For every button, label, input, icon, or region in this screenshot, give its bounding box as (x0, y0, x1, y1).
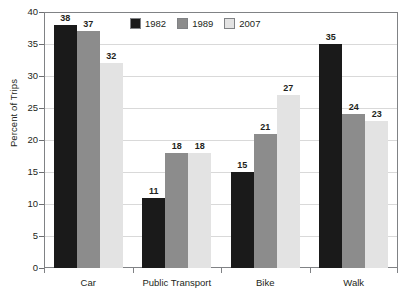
gridline (45, 108, 397, 109)
y-axis-tick-label: 0 (12, 263, 38, 273)
y-axis-tick-label: 10 (12, 199, 38, 209)
x-axis-tick-mark (44, 268, 45, 273)
legend-swatch-icon (224, 18, 235, 29)
legend-item: 2007 (224, 18, 260, 29)
legend-swatch-icon (177, 18, 188, 29)
x-axis-tick-mark (221, 268, 222, 273)
x-axis-tick-label: Walk (310, 277, 399, 289)
gridline (45, 76, 397, 77)
x-axis-tick-label: Car (44, 277, 133, 289)
gridline (45, 44, 397, 45)
y-axis-tick-mark (39, 268, 44, 269)
y-axis-tick-label: 40 (12, 7, 38, 17)
y-axis-tick-labels: 0510152025303540 (10, 0, 38, 301)
y-axis-tick-mark (39, 12, 44, 13)
y-axis-tick-label: 35 (12, 39, 38, 49)
x-axis-tick-marks (44, 268, 398, 274)
y-axis-tick-mark (39, 236, 44, 237)
x-axis-tick-mark (310, 268, 311, 273)
y-axis-tick-mark (39, 108, 44, 109)
gridline (45, 172, 397, 173)
plot-area (44, 12, 398, 268)
x-axis-tick-mark (133, 268, 134, 273)
y-axis-tick-label: 30 (12, 71, 38, 81)
y-axis-tick-mark (39, 44, 44, 45)
legend-item: 1989 (177, 18, 213, 29)
legend-item: 1982 (130, 18, 166, 29)
y-axis-tick-label: 20 (12, 135, 38, 145)
x-axis-tick-labels: CarPublic TransportBikeWalk (44, 277, 398, 293)
chart-legend: 198219892007 (130, 17, 260, 30)
legend-label: 2007 (239, 18, 260, 29)
y-axis-tick-label: 5 (12, 231, 38, 241)
gridline (45, 140, 397, 141)
legend-label: 1982 (145, 18, 166, 29)
legend-swatch-icon (130, 18, 141, 29)
x-axis-tick-label: Public Transport (133, 277, 222, 289)
y-axis-tick-label: 15 (12, 167, 38, 177)
y-axis-tick-mark (39, 76, 44, 77)
gridline (45, 236, 397, 237)
y-axis-tick-mark (39, 204, 44, 205)
x-axis-tick-mark (397, 268, 398, 273)
y-axis-tick-mark (39, 140, 44, 141)
gridline (45, 204, 397, 205)
legend-label: 1989 (192, 18, 213, 29)
grouped-bar-chart: Percent of Trips 0510152025303540 383732… (0, 0, 417, 301)
y-axis-tick-mark (39, 172, 44, 173)
y-axis-tick-label: 25 (12, 103, 38, 113)
x-axis-tick-label: Bike (221, 277, 310, 289)
